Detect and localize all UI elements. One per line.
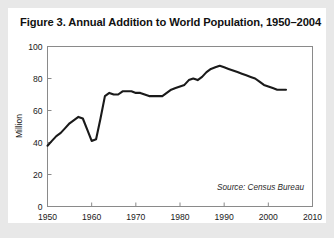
chart-plot-area: 020406080100 195019601970198019902000201… [8,30,326,223]
page-title: Figure 3. Annual Addition to World Popul… [20,16,321,28]
x-tick-label: 2000 [259,212,278,222]
figure-card: Figure 3. Annual Addition to World Popul… [8,8,326,223]
y-tick-label: 0 [38,202,43,212]
y-tick-label: 100 [28,42,43,52]
x-tick-label: 1990 [215,212,234,222]
y-tick-label: 20 [33,170,43,180]
x-tick-label: 2010 [303,212,322,222]
y-tick-label: 40 [33,138,43,148]
source-annotation: Source: Census Bureau [217,183,304,192]
x-tick-label: 1980 [170,212,189,222]
y-tick-label: 60 [33,106,43,116]
x-tick-label: 1970 [126,212,145,222]
y-axis-title: Million [14,114,24,138]
y-axis-tick-labels: 020406080100 [28,42,43,212]
x-tick-label: 1950 [38,212,57,222]
y-tick-label: 80 [33,74,43,84]
x-axis-tick-labels: 1950196019701980199020002010 [38,212,322,222]
line-chart: 020406080100 195019601970198019902000201… [8,30,326,223]
x-tick-label: 1960 [82,212,101,222]
